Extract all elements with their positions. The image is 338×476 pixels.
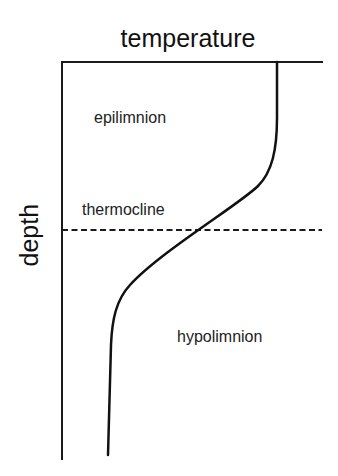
x-axis-label: temperature (0, 26, 338, 51)
thermocline-label: thermocline (82, 202, 165, 218)
stratification-diagram (0, 0, 338, 476)
hypolimnion-label: hypolimnion (177, 329, 262, 345)
epilimnion-label: epilimnion (94, 110, 166, 126)
y-axis-label: depth (17, 209, 42, 267)
